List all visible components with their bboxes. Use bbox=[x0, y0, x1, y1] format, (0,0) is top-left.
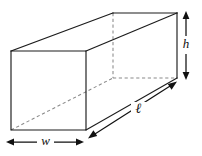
top-left-connector-edge bbox=[11, 13, 113, 51]
solid-edges-group bbox=[11, 13, 177, 130]
top-right-connector-edge bbox=[86, 13, 177, 51]
front-face-outline bbox=[11, 51, 86, 130]
width-arrowhead-left-icon bbox=[6, 139, 14, 146]
height-dimension-group: h bbox=[179, 11, 193, 80]
prism-diagram: h ℓ w bbox=[0, 0, 202, 156]
length-dimension-group: ℓ bbox=[88, 81, 177, 138]
bottom-left-diagonal-hidden-edge bbox=[11, 78, 113, 130]
hidden-edges-group bbox=[11, 13, 177, 130]
length-arrowhead-lower-left-icon bbox=[88, 130, 97, 138]
height-label: h bbox=[183, 36, 190, 51]
length-label: ℓ bbox=[136, 101, 142, 116]
width-dimension-group: w bbox=[6, 133, 84, 150]
width-label: w bbox=[41, 133, 50, 148]
width-arrowhead-right-icon bbox=[76, 139, 84, 146]
height-arrowhead-down-icon bbox=[183, 72, 190, 80]
prism-figure: h ℓ w bbox=[0, 0, 202, 156]
height-arrowhead-up-icon bbox=[183, 11, 190, 19]
